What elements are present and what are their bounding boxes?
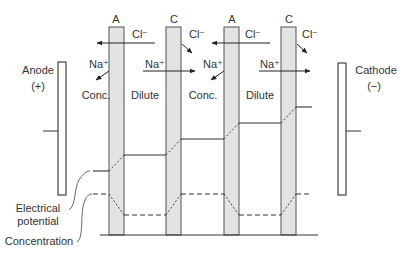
chloride-blocked-arrow [182, 44, 192, 53]
ion-label-sodium: Na⁺ [260, 58, 280, 70]
legend-electrical-potential-line2: potential [17, 215, 59, 227]
ion-label-sodium: Na⁺ [203, 58, 223, 70]
ion-label-chloride: Cl⁻ [245, 28, 261, 40]
legend: Electrical potential Concentration [5, 171, 92, 247]
membrane-label: A [228, 13, 236, 25]
electrodialysis-diagram: Anode (+) Cathode (−) A C A C Conc. Dilu… [0, 0, 404, 259]
anode: Anode (+) [22, 62, 66, 195]
membrane-label: A [112, 13, 120, 25]
compartment-label: Conc. [189, 89, 218, 101]
ion-label-chloride: Cl⁻ [189, 28, 205, 40]
sodium-blocked-arrow [96, 71, 109, 80]
membrane-label: C [285, 13, 293, 25]
electrical-potential-leader [69, 171, 90, 210]
sodium-blocked-arrow [211, 71, 224, 80]
compartment-label: Conc. [82, 89, 111, 101]
legend-electrical-potential-line1: Electrical [16, 202, 61, 214]
cathode-label: Cathode [355, 64, 397, 76]
anode-sign: (+) [31, 80, 45, 92]
concentration-leader [77, 194, 92, 242]
cathode: Cathode (−) [338, 63, 397, 195]
ion-label-chloride: Cl⁻ [132, 28, 148, 40]
ion-label-sodium: Na⁺ [145, 58, 165, 70]
concentration-profile [93, 194, 312, 215]
ion-label-chloride: Cl⁻ [302, 28, 318, 40]
chloride-blocked-arrow [297, 44, 307, 53]
membranes: A C A C [109, 13, 296, 235]
electrical-potential-profile [93, 107, 312, 171]
legend-concentration: Concentration [5, 235, 74, 247]
anode-plate [58, 62, 66, 195]
ion-label-sodium: Na⁺ [89, 58, 109, 70]
compartment-label: Dilute [131, 89, 159, 101]
membrane-label: C [170, 13, 178, 25]
cathode-plate [338, 63, 346, 195]
compartment-label: Dilute [246, 89, 274, 101]
cathode-sign: (−) [367, 80, 381, 92]
anode-label: Anode [22, 64, 54, 76]
